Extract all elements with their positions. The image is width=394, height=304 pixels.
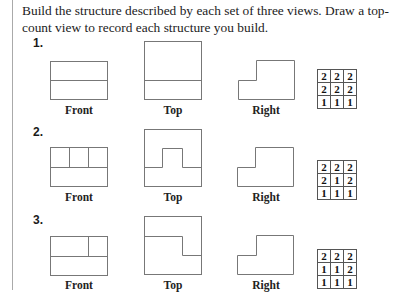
count-cell: 1 <box>344 96 357 109</box>
count-cell: 2 <box>318 83 331 96</box>
count-cell: 1 <box>331 187 344 200</box>
count-cell: 1 <box>344 187 357 200</box>
count-cell: 2 <box>344 174 357 187</box>
count-cell: 2 <box>344 250 357 263</box>
problem-3-front-view <box>51 237 108 276</box>
count-cell: 1 <box>331 174 344 187</box>
problem-1-front-view <box>51 62 108 100</box>
count-cell: 2 <box>331 161 344 174</box>
problem-3-right-label: Right <box>236 279 296 291</box>
count-cell: 2 <box>331 70 344 83</box>
problem-3-top-label: Top <box>143 279 203 291</box>
count-cell: 1 <box>331 96 344 109</box>
count-cell: 2 <box>318 161 331 174</box>
problem-1-top-count-grid: 222 222 111 <box>317 69 357 109</box>
problem-3-right-view <box>238 236 294 275</box>
problem-2-right-label: Right <box>236 191 296 203</box>
problem-3-front-label: Front <box>49 279 109 291</box>
problem-1-front-label: Front <box>49 104 109 116</box>
count-cell: 1 <box>331 276 344 289</box>
count-cell: 2 <box>344 263 357 276</box>
problem-1-top-view <box>145 42 202 100</box>
problem-1-right-view <box>239 61 295 100</box>
problem-2-front-view <box>51 148 108 187</box>
problem-2-top-view <box>145 130 202 187</box>
problem-2-right-view <box>238 148 294 187</box>
count-cell: 1 <box>318 187 331 200</box>
count-cell: 1 <box>344 276 357 289</box>
count-cell: 1 <box>318 263 331 276</box>
problem-3-top-count-grid: 222 112 111 <box>317 249 357 289</box>
problem-1-right-label: Right <box>236 104 296 116</box>
count-cell: 1 <box>318 276 331 289</box>
problem-3-top-view <box>145 217 202 275</box>
count-cell: 2 <box>344 70 357 83</box>
count-cell: 2 <box>318 250 331 263</box>
count-cell: 2 <box>318 174 331 187</box>
problem-2-top-count-grid: 222 212 111 <box>317 160 357 200</box>
count-cell: 1 <box>331 263 344 276</box>
problem-2-front-label: Front <box>49 191 109 203</box>
count-cell: 2 <box>331 250 344 263</box>
count-cell: 2 <box>344 83 357 96</box>
problem-1-top-label: Top <box>143 104 203 116</box>
problem-2-top-label: Top <box>143 191 203 203</box>
count-cell: 1 <box>318 96 331 109</box>
count-cell: 2 <box>344 161 357 174</box>
count-cell: 2 <box>318 70 331 83</box>
count-cell: 2 <box>331 83 344 96</box>
